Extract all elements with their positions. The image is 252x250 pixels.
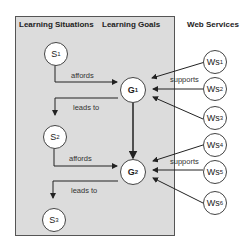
node-web-service-3: Ws3 — [203, 106, 227, 130]
label-affords-2: affords — [69, 154, 92, 163]
label-affords-1: affords — [71, 71, 94, 80]
label-leads-to-2: leads to — [71, 186, 97, 195]
node-goal-1: G1 — [120, 77, 146, 103]
node-web-service-5: Ws5 — [203, 160, 227, 184]
node-situation-3: S3 — [42, 208, 66, 232]
edge-ws3-supports — [153, 97, 203, 119]
node-goal-2: G2 — [120, 159, 146, 185]
label-supports-2: supports — [170, 157, 199, 166]
edge-ws6-supports — [153, 178, 203, 203]
node-web-service-2: Ws2 — [203, 77, 227, 101]
label-leads-to-1: leads to — [73, 103, 99, 112]
node-situation-1: S1 — [44, 42, 68, 66]
node-web-service-4: Ws4 — [203, 133, 227, 157]
node-web-service-6: Ws6 — [203, 191, 227, 215]
node-situation-2: S2 — [43, 125, 67, 149]
label-supports-1: supports — [170, 75, 199, 84]
node-web-service-1: Ws1 — [203, 50, 227, 74]
